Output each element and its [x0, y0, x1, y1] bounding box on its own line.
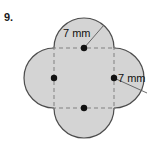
top-center-dot: [81, 45, 87, 51]
bottom-center-dot: [81, 105, 87, 111]
right-center-dot: [111, 75, 117, 81]
inner-square-fill: [54, 48, 114, 108]
quatrefoil-diagram: 7 mm 7 mm: [0, 0, 162, 163]
right-radius-label: 7 mm: [118, 72, 146, 84]
geometry-problem-figure: 9. 7 mm 7 mm: [0, 0, 162, 163]
left-center-dot: [51, 75, 57, 81]
top-radius-label: 7 mm: [63, 27, 91, 39]
